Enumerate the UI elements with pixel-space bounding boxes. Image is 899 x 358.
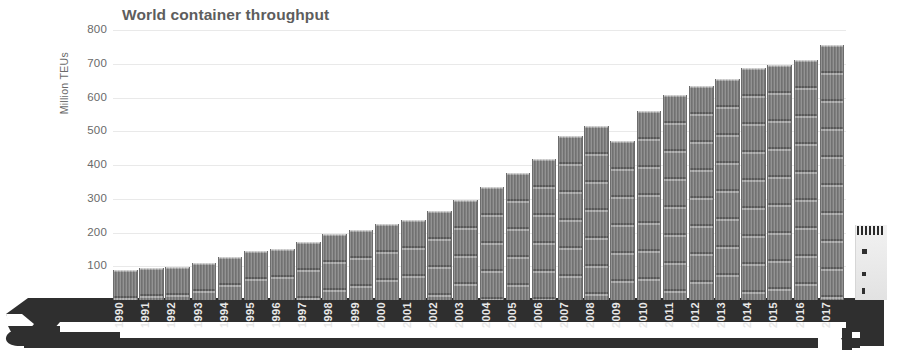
bar-2003 xyxy=(453,200,478,300)
x-tick-label-2010: 2010 xyxy=(637,302,662,328)
container-stack xyxy=(270,249,295,300)
bar-1994 xyxy=(218,257,243,300)
y-tick-label: 100 xyxy=(61,259,107,271)
bar-2002 xyxy=(427,211,452,300)
container-stack xyxy=(349,230,374,300)
container-stack xyxy=(794,60,819,300)
bar-1997 xyxy=(296,242,321,300)
container-stack xyxy=(820,45,845,300)
bar-2012 xyxy=(689,86,714,300)
bar-2000 xyxy=(375,224,400,300)
bar-1992 xyxy=(165,267,190,300)
y-tick-label: 400 xyxy=(61,158,107,170)
bar-series xyxy=(113,30,846,300)
container-stack xyxy=(741,68,766,300)
container-stack xyxy=(113,270,138,300)
container-stack xyxy=(767,65,792,300)
x-tick-label-1996: 1996 xyxy=(270,302,295,328)
bar-2001 xyxy=(401,220,426,300)
bar-2015 xyxy=(767,65,792,300)
x-tick-label-2006: 2006 xyxy=(532,302,557,328)
y-tick-label: 300 xyxy=(61,192,107,204)
bridge-windows-icon xyxy=(857,226,885,235)
x-tick-label-1994: 1994 xyxy=(218,302,243,328)
x-tick-label-2007: 2007 xyxy=(558,302,583,328)
x-tick-label-2000: 2000 xyxy=(375,302,400,328)
bar-2004 xyxy=(480,187,505,300)
bar-2013 xyxy=(715,79,740,300)
x-tick-label-1990: 1990 xyxy=(113,302,138,328)
y-tick-label: 500 xyxy=(61,124,107,136)
container-stack xyxy=(558,136,583,300)
x-tick-label-2002: 2002 xyxy=(427,302,452,328)
bar-2010 xyxy=(637,111,662,300)
bar-1996 xyxy=(270,249,295,300)
y-tick-label: 200 xyxy=(61,226,107,238)
x-tick-label-1992: 1992 xyxy=(165,302,190,328)
bar-2017 xyxy=(820,45,845,300)
x-tick-label-2005: 2005 xyxy=(506,302,531,328)
container-stack xyxy=(244,251,269,300)
y-tick-label: 600 xyxy=(61,91,107,103)
x-tick-label-2008: 2008 xyxy=(584,302,609,328)
x-tick-label-2012: 2012 xyxy=(689,302,714,328)
ship-superstructure xyxy=(855,225,887,300)
chart-title: World container throughput xyxy=(122,6,329,24)
container-stack xyxy=(296,242,321,300)
x-tick-label-2017: 2017 xyxy=(820,302,845,328)
x-tick-label-2014: 2014 xyxy=(741,302,766,328)
chart-figure: World container throughput Million TEUs … xyxy=(0,0,899,358)
x-tick-label-1991: 1991 xyxy=(139,302,164,328)
container-stack xyxy=(165,267,190,300)
bar-1990 xyxy=(113,270,138,300)
y-tick-label: 800 xyxy=(61,23,107,35)
hull-porthole xyxy=(862,249,867,254)
x-tick-label-2013: 2013 xyxy=(715,302,740,328)
container-stack xyxy=(532,159,557,300)
container-stack xyxy=(506,173,531,300)
container-stack xyxy=(663,95,688,300)
x-tick-label-2004: 2004 xyxy=(480,302,505,328)
container-stack xyxy=(610,141,635,300)
bar-2006 xyxy=(532,159,557,300)
container-stack xyxy=(584,126,609,300)
x-tick-label-1995: 1995 xyxy=(244,302,269,328)
x-tick-label-1997: 1997 xyxy=(296,302,321,328)
x-tick-label-2016: 2016 xyxy=(794,302,819,328)
bar-1993 xyxy=(192,263,217,300)
container-stack xyxy=(322,234,347,300)
bar-1991 xyxy=(139,268,164,300)
container-stack xyxy=(453,200,478,300)
x-tick-label-2009: 2009 xyxy=(610,302,635,328)
bar-2014 xyxy=(741,68,766,300)
container-stack xyxy=(427,211,452,300)
x-axis-labels: 1990199119921993199419951996199719981999… xyxy=(113,300,846,350)
x-tick-label-1999: 1999 xyxy=(349,302,374,328)
x-tick-label-1998: 1998 xyxy=(322,302,347,328)
bar-1998 xyxy=(322,234,347,300)
bar-1999 xyxy=(349,230,374,300)
container-stack xyxy=(218,257,243,300)
bar-2008 xyxy=(584,126,609,300)
x-tick-label-1993: 1993 xyxy=(192,302,217,328)
bar-1995 xyxy=(244,251,269,300)
bar-2009 xyxy=(610,141,635,300)
container-stack xyxy=(689,86,714,300)
y-tick-label: 700 xyxy=(61,57,107,69)
container-stack xyxy=(637,111,662,300)
hull-porthole xyxy=(862,272,866,276)
container-stack xyxy=(375,224,400,300)
container-stack xyxy=(401,220,426,300)
container-stack xyxy=(715,79,740,300)
x-tick-label-2003: 2003 xyxy=(453,302,478,328)
bar-2007 xyxy=(558,136,583,300)
bar-2016 xyxy=(794,60,819,300)
container-stack xyxy=(480,187,505,300)
container-stack xyxy=(192,263,217,300)
bar-2011 xyxy=(663,95,688,300)
x-tick-label-2015: 2015 xyxy=(767,302,792,328)
x-tick-label-2001: 2001 xyxy=(401,302,426,328)
bar-2005 xyxy=(506,173,531,300)
x-tick-label-2011: 2011 xyxy=(663,302,688,327)
hull-porthole xyxy=(862,288,865,294)
